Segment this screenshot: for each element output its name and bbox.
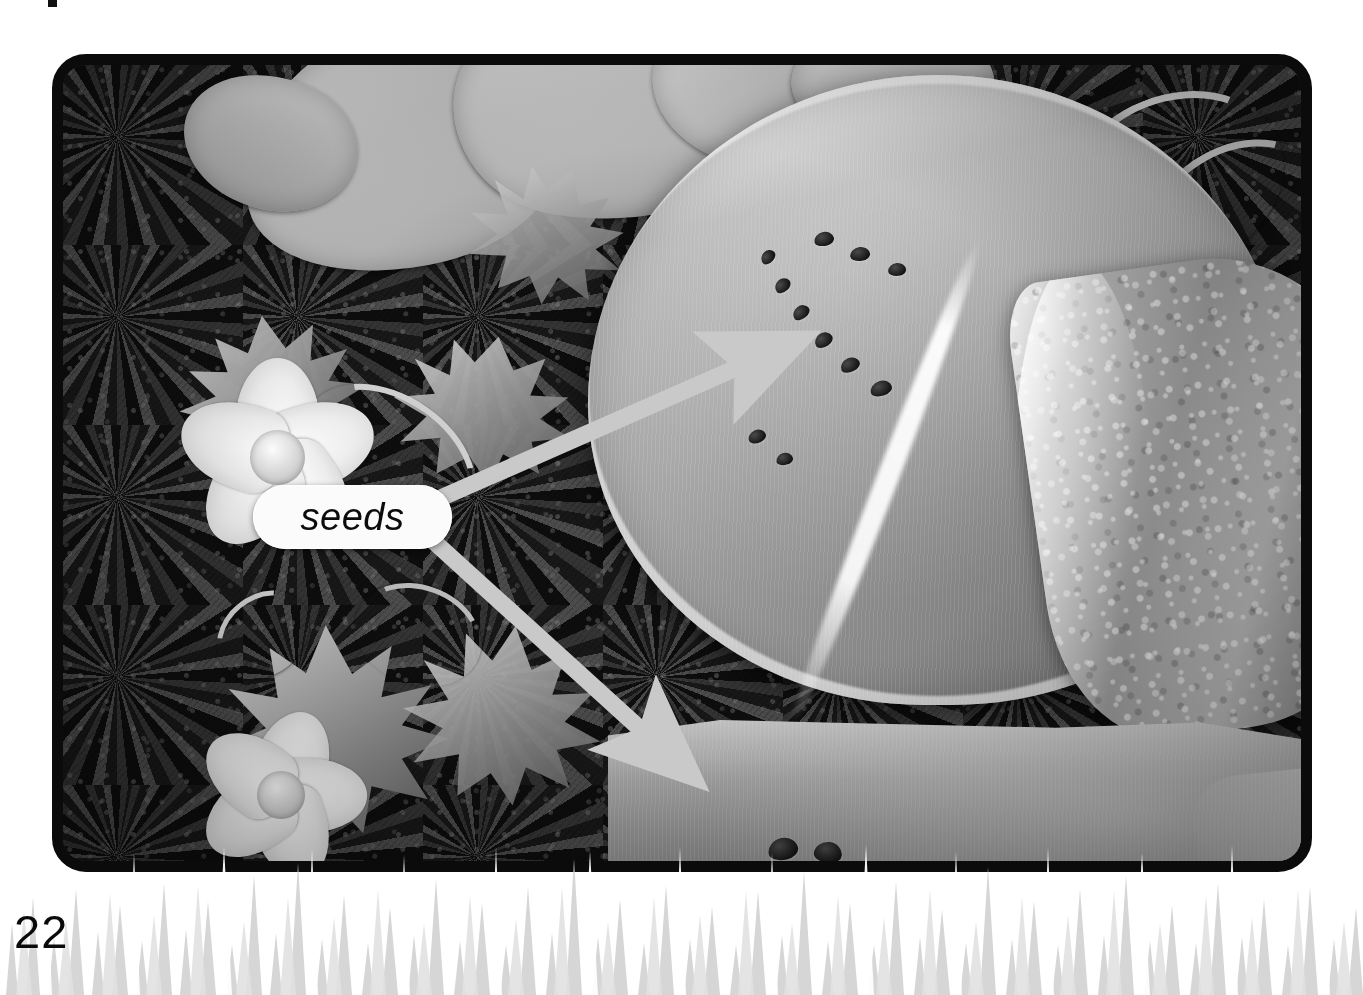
flower-center bbox=[250, 430, 306, 486]
photo-frame bbox=[52, 54, 1312, 872]
watermelon-slice bbox=[608, 720, 1301, 861]
flower-center bbox=[257, 771, 305, 819]
book-page: seeds bbox=[0, 0, 1363, 995]
cropped-heading-glyph bbox=[48, 0, 57, 7]
page-number: 22 bbox=[14, 908, 68, 955]
watermelon-flower bbox=[201, 715, 361, 861]
callout-label: seeds bbox=[301, 498, 405, 536]
photograph bbox=[63, 65, 1301, 861]
seeds-callout-pill: seeds bbox=[253, 485, 452, 549]
